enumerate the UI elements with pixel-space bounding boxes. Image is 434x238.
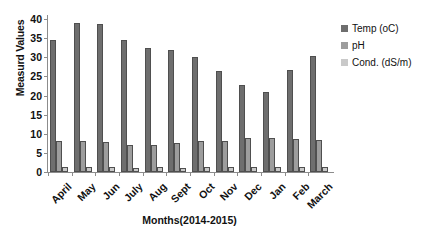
bar-group xyxy=(143,19,167,172)
y-axis-tick-label: 20 xyxy=(30,90,42,102)
bar-chart: Measurd Values 4035302520151050 AprilMay… xyxy=(0,0,434,238)
bar-group xyxy=(308,19,332,172)
x-axis-tick-labels: AprilMayJunJulyAugSeptOctNovDecJanFebMar… xyxy=(48,176,333,210)
bar-group xyxy=(261,19,285,172)
y-axis-tick-label: 5 xyxy=(36,147,42,159)
legend-label: pH xyxy=(352,40,365,51)
bar xyxy=(86,167,92,172)
x-axis-title: Months(2014-2015) xyxy=(47,214,332,226)
y-axis-tick-label: 40 xyxy=(30,13,42,25)
bar xyxy=(157,167,163,172)
y-axis-tick-label: 0 xyxy=(36,166,42,178)
bar xyxy=(275,167,281,172)
y-axis-tick-label: 15 xyxy=(30,109,42,121)
y-axis-title: Measurd Values xyxy=(14,0,26,118)
legend-label: Cond. (dS/m) xyxy=(352,57,411,68)
bar xyxy=(133,168,139,172)
y-axis-tick-label: 25 xyxy=(30,70,42,82)
bar xyxy=(299,167,305,172)
legend-swatch-icon xyxy=(341,42,348,49)
bar xyxy=(180,168,186,172)
bar-group xyxy=(166,19,190,172)
y-axis-tick-label: 35 xyxy=(30,32,42,44)
bar-group xyxy=(72,19,96,172)
plot-area: 4035302520151050 xyxy=(47,19,332,173)
legend-item[interactable]: Cond. (dS/m) xyxy=(341,57,411,68)
bar-group xyxy=(237,19,261,172)
legend-label: Temp (oC) xyxy=(352,23,399,34)
bar xyxy=(228,167,234,172)
bar xyxy=(204,167,210,172)
bar xyxy=(62,167,68,172)
legend-item[interactable]: pH xyxy=(341,40,411,51)
y-axis-tick-label: 30 xyxy=(30,51,42,63)
bar-group xyxy=(119,19,143,172)
y-axis-tick-label: 10 xyxy=(30,128,42,140)
bar-group xyxy=(95,19,119,172)
legend-item[interactable]: Temp (oC) xyxy=(341,23,411,34)
bar-group xyxy=(190,19,214,172)
legend-swatch-icon xyxy=(341,25,348,32)
bars-layer xyxy=(48,19,332,172)
bar xyxy=(322,167,328,172)
bar xyxy=(109,167,115,172)
bar-group xyxy=(48,19,72,172)
bar xyxy=(251,167,257,172)
bar-group xyxy=(214,19,238,172)
legend-swatch-icon xyxy=(341,59,348,66)
chart-legend: Temp (oC)pHCond. (dS/m) xyxy=(341,23,411,68)
bar-group xyxy=(285,19,309,172)
